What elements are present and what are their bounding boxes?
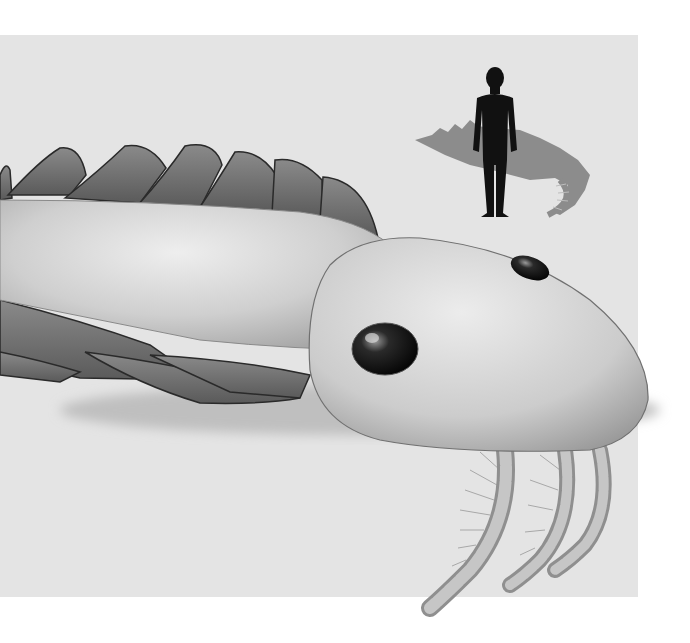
creature-eye-near [352, 323, 418, 375]
human-silhouette-icon [473, 67, 517, 217]
scale-comparison [415, 67, 590, 217]
eye-highlight [365, 333, 379, 343]
creature-illustration [0, 0, 690, 643]
frontal-appendages [430, 450, 604, 608]
